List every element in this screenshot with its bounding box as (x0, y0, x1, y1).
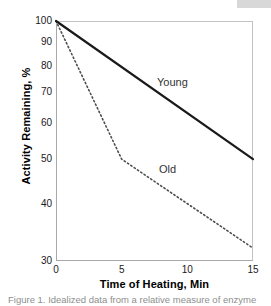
x-tick-label: 0 (42, 264, 70, 276)
figure-caption: Figure 1. Idealized data from a relative… (8, 294, 266, 306)
series-annotation-young: Young (157, 76, 188, 88)
y-tick-label: 100 (26, 16, 52, 26)
chart-canvas: 100 90 80 70 60 50 40 30 Young Old 0 5 1… (0, 0, 271, 262)
series-plot-area (56, 21, 253, 261)
x-tick-label: 5 (108, 264, 136, 276)
x-axis-title: Time of Heating, Min (56, 278, 253, 290)
x-axis-tick-labels: 0 5 10 15 (56, 264, 253, 278)
x-tick-label: 10 (173, 264, 201, 276)
series-annotation-old: Old (159, 163, 176, 175)
figure-root: 100 90 80 70 60 50 40 30 Young Old 0 5 1… (0, 0, 271, 306)
y-axis-title: Activity Remaining, % (20, 36, 32, 216)
x-tick-label: 15 (239, 264, 267, 276)
series-line-old (56, 21, 253, 248)
series-line-young (56, 21, 253, 159)
